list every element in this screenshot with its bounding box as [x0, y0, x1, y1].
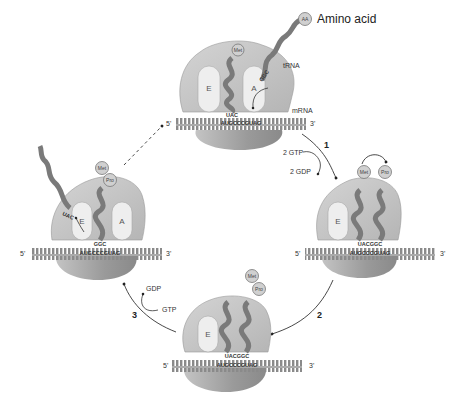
svg-text:3': 3' [309, 362, 314, 369]
svg-text:AUGCCCGUAG: AUGCCCGUAG [217, 362, 258, 368]
svg-text:Pro: Pro [255, 286, 263, 292]
exiting-trna [40, 146, 70, 208]
svg-text:3': 3' [310, 120, 315, 127]
svg-text:UACGGC: UACGGC [358, 241, 382, 247]
svg-text:AUGCCCGUAG: AUGCCCGUAG [80, 250, 121, 256]
svg-text:Pro: Pro [106, 177, 114, 183]
step-2-number: 2 [317, 310, 322, 320]
panel-bottom-ribosome: E Met Pro UACGGC AUGCCCGUAG 5' 3' [163, 270, 314, 393]
small-subunit [195, 130, 282, 150]
elongation-diagram: E A Met UAC GGC tRNA AUGCCCGUAG mRNA 5' … [0, 0, 459, 400]
cycle-return-arrow [124, 126, 162, 165]
panel-right-ribosome: E Met Pro UACGGC AUGCCCGUAG 5' 3' [295, 155, 445, 278]
amino-acid-label: Amino acid [317, 12, 376, 26]
trna-label: tRNA [283, 62, 300, 69]
svg-text:Pro: Pro [381, 169, 389, 175]
svg-text:AUGCCCGUAG: AUGCCCGUAG [350, 250, 391, 256]
svg-text:A: A [119, 217, 125, 226]
step-1-output: 2 GDP [290, 168, 311, 175]
svg-text:5': 5' [20, 250, 25, 257]
step-1: 1 2 GTP 2 GDP [283, 134, 336, 178]
step-3: 3 GTP GDP [124, 284, 177, 332]
svg-text:Met: Met [98, 165, 107, 171]
mrna-label: mRNA [292, 107, 313, 114]
peptide-transfer-arrow [362, 155, 386, 164]
step-3-number: 3 [132, 310, 137, 320]
svg-text:E: E [79, 217, 84, 226]
step-2: 2 [272, 280, 333, 334]
step-1-input: 2 GTP [283, 149, 304, 156]
svg-text:UACGGC: UACGGC [225, 353, 249, 359]
a-site-label: A [251, 84, 257, 93]
p-anticodon: UAC [226, 112, 238, 118]
svg-text:Met: Met [248, 273, 257, 279]
step-1-number: 1 [324, 140, 329, 150]
svg-text:5': 5' [163, 362, 168, 369]
svg-text:Met: Met [360, 169, 369, 175]
svg-text:3': 3' [440, 250, 445, 257]
svg-text:5': 5' [295, 250, 300, 257]
panel-left-ribosome: E A UAC Met Pro GGC AUGCCCGUAG 5' 3' [20, 146, 171, 280]
e-site-label: E [206, 84, 211, 93]
panel-top-ribosome: E A Met UAC GGC tRNA AUGCCCGUAG mRNA 5' … [166, 20, 315, 150]
svg-text:Met: Met [234, 47, 243, 53]
svg-text:AUGCCCGUAG: AUGCCCGUAG [221, 120, 262, 126]
svg-text:AA: AA [302, 16, 309, 22]
svg-text:3': 3' [166, 250, 171, 257]
amino-acid-legend: AA Amino acid [299, 12, 377, 26]
svg-text:5': 5' [166, 120, 171, 127]
svg-text:E: E [335, 217, 340, 226]
svg-text:E: E [205, 330, 210, 339]
svg-text:GGC: GGC [94, 241, 107, 247]
step-3-input: GTP [162, 306, 177, 313]
step-3-output: GDP [146, 285, 162, 292]
